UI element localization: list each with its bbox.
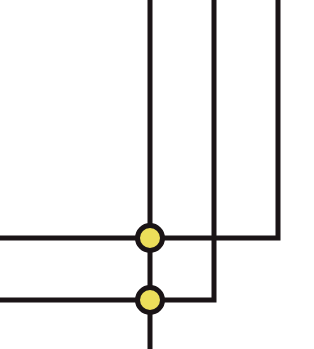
wire-diagram — [0, 0, 314, 349]
wire-vertical-middle — [0, 0, 214, 300]
junction-node-bottom — [138, 288, 163, 313]
wire-vertical-right — [0, 0, 278, 238]
junction-node-top — [138, 226, 163, 251]
